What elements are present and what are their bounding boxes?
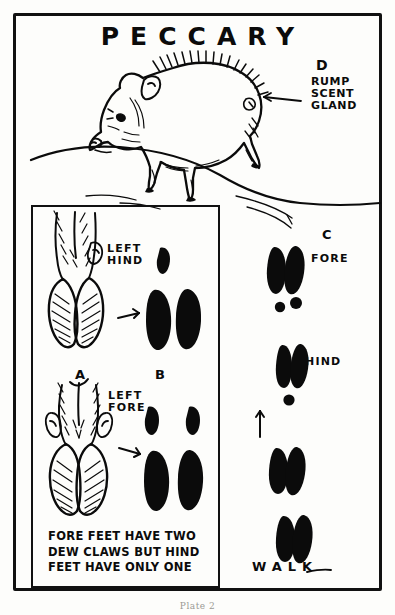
callout-letter-a: A — [75, 368, 86, 382]
left-hind-label: LEFT HIND — [107, 243, 143, 267]
rump-scent-gland-label: RUMP SCENT GLAND — [311, 76, 357, 112]
callout-letter-d: D — [316, 58, 328, 73]
trackway-hind-label: HIND — [305, 356, 341, 368]
left-fore-label: LEFT FORE — [108, 390, 146, 414]
callout-letter-c: C — [322, 228, 333, 242]
inset-caption: FORE FEET HAVE TWO DEW CLAWS BUT HIND FE… — [48, 529, 200, 576]
gait-label-walk: WALK — [252, 560, 318, 574]
plate-footer: Plate 2 — [0, 601, 395, 611]
page-title: PECCARY — [0, 22, 395, 51]
callout-letter-b: B — [155, 368, 166, 382]
plate-page: PECCARY — [0, 0, 395, 615]
trackway-fore-label: FORE — [311, 253, 349, 265]
